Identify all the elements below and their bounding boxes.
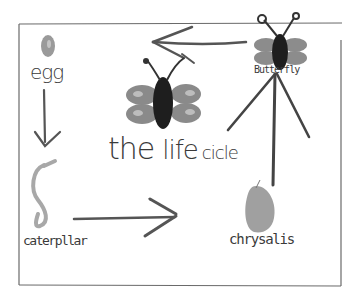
arrow-down-icon bbox=[35, 90, 60, 146]
arrow-left-icon bbox=[153, 27, 246, 63]
egg-label: egg bbox=[30, 60, 63, 84]
caterpillar-label: caterpllar bbox=[23, 233, 86, 248]
title-word-the: the bbox=[108, 131, 154, 166]
butterfly-label: Butterfly bbox=[254, 64, 299, 75]
caterpillar-icon bbox=[33, 161, 55, 226]
arrow-right-icon bbox=[74, 199, 176, 236]
title-word-cicle: cicle bbox=[202, 142, 238, 163]
chrysalis-icon bbox=[245, 180, 274, 232]
title-word-life: life bbox=[162, 135, 198, 165]
egg-icon bbox=[41, 35, 55, 57]
butterfly-icon-center bbox=[126, 58, 201, 129]
life-cycle-drawing: egg caterpllar chrysalis Butterfly theli… bbox=[0, 0, 359, 303]
chrysalis-label: chrysalis bbox=[229, 231, 294, 247]
page-title: thelifecicle bbox=[108, 131, 238, 166]
butterfly-lines bbox=[228, 74, 309, 185]
butterfly-icon-top bbox=[254, 13, 307, 70]
